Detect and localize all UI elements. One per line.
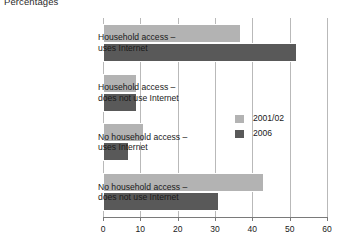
tick-mark-0	[103, 217, 104, 221]
x-tick-label-50: 50	[285, 224, 294, 234]
legend-swatch-icon	[234, 114, 245, 124]
tick-mark-10	[140, 217, 141, 221]
x-tick-label-30: 30	[210, 224, 219, 234]
x-tick-label-0: 0	[101, 224, 106, 234]
legend-label: 2001/02	[253, 113, 284, 123]
tick-mark-40	[252, 217, 253, 221]
tick-mark-20	[178, 217, 179, 221]
legend-label: 2006	[253, 128, 272, 138]
gridline-60	[327, 18, 328, 217]
x-tick-label-60: 60	[322, 224, 331, 234]
x-tick-label-10: 10	[136, 224, 145, 234]
x-tick-label-20: 20	[173, 224, 182, 234]
tick-mark-50	[290, 217, 291, 221]
x-tick-label-40: 40	[248, 224, 257, 234]
tick-mark-30	[215, 217, 216, 221]
chart-title: Percentages	[4, 0, 58, 7]
legend-swatch-icon	[234, 129, 245, 139]
bar-chart: Percentages 0102030405060 Household acce…	[0, 0, 341, 246]
tick-mark-60	[327, 217, 328, 221]
